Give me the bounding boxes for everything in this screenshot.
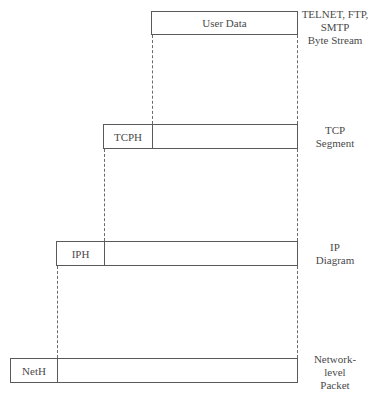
tcp-layer-label: TCP Segment — [297, 124, 373, 150]
label-line: Packet — [297, 379, 373, 392]
connector-line — [57, 266, 58, 358]
application-layer-label: TELNET, FTP, SMTP Byte Stream — [297, 8, 373, 47]
connector-line — [152, 35, 153, 124]
connector-line — [297, 149, 298, 241]
label-line: Byte Stream — [297, 34, 373, 47]
user-data-box: User Data — [151, 11, 298, 35]
connector-line — [104, 149, 105, 241]
tcp-header-cell: TCPH — [104, 125, 153, 148]
network-packet-box: NetH — [10, 358, 298, 383]
network-layer-label: Network- level Packet — [297, 353, 373, 392]
label-line: Diagram — [297, 254, 373, 267]
user-data-cell: User Data — [152, 12, 297, 34]
connector-line — [297, 266, 298, 358]
label-line: level — [297, 366, 373, 379]
tcp-segment-box: TCPH — [103, 124, 298, 149]
label-line: Segment — [297, 137, 373, 150]
ip-header-cell: IPH — [57, 242, 105, 265]
label-line: TELNET, FTP, — [297, 8, 373, 21]
ip-layer-label: IP Diagram — [297, 241, 373, 267]
label-line: TCP — [297, 124, 373, 137]
network-header-cell: NetH — [11, 359, 58, 382]
connector-line — [297, 35, 298, 124]
label-line: Network- — [297, 353, 373, 366]
label-line: SMTP — [297, 21, 373, 34]
label-line: IP — [297, 241, 373, 254]
ip-datagram-box: IPH — [56, 241, 298, 266]
